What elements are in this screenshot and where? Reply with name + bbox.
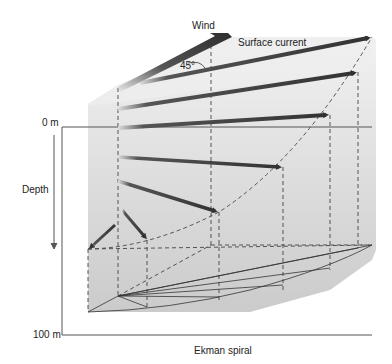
surface-current-label: Surface current (238, 37, 306, 48)
depth-top-label: 0 m (42, 117, 59, 128)
depth-axis-label: Depth (22, 184, 49, 195)
wind-label: Wind (192, 20, 215, 31)
depth-bottom-label: 100 m (33, 329, 61, 340)
ekman-spiral-diagram (0, 0, 392, 364)
caption: Ekman spiral (194, 345, 252, 356)
depth-arrow-head (51, 243, 57, 249)
angle-label: 45° (180, 60, 195, 71)
